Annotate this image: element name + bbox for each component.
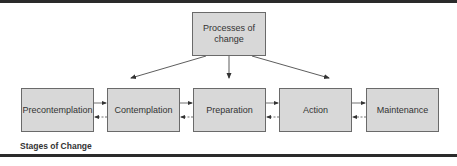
stage-contemplation: Contemplation [107,88,180,132]
processes-of-change-label: Processes of change [199,23,259,45]
stage-label: Action [303,105,328,116]
stage-label: Contemplation [114,105,172,116]
arrow-to-contemplation [131,56,206,78]
figure-caption: Stages of Change [20,141,92,151]
stage-label: Preparation [206,105,253,116]
stage-precontemplation: Precontemplation [21,88,94,132]
stage-label: Maintenance [377,105,429,116]
bottom-rule [0,154,457,157]
stage-preparation: Preparation [193,88,266,132]
stage-maintenance: Maintenance [366,88,439,132]
stage-action: Action [279,88,352,132]
stage-label: Precontemplation [22,105,92,116]
arrow-to-action [252,56,329,78]
processes-of-change-node: Processes of change [192,12,266,56]
